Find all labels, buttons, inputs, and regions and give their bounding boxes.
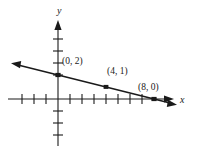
data-point-marker-0	[55, 73, 60, 77]
y-axis-arrowhead	[54, 20, 61, 30]
data-point-marker-1	[104, 85, 109, 89]
line-arrowhead-left	[11, 61, 21, 68]
line-arrowhead-right	[167, 100, 177, 107]
graph-canvas	[0, 0, 199, 155]
point-label-8-0: (8, 0)	[138, 83, 159, 93]
point-label-0-2: (0, 2)	[62, 57, 83, 67]
coordinate-graph-figure: y x (0, 2) (4, 1) (8, 0)	[0, 0, 199, 155]
data-point-marker-2	[151, 97, 156, 101]
point-label-4-1: (4, 1)	[107, 67, 128, 77]
x-axis-label: x	[180, 95, 184, 105]
y-axis-label: y	[57, 6, 61, 16]
